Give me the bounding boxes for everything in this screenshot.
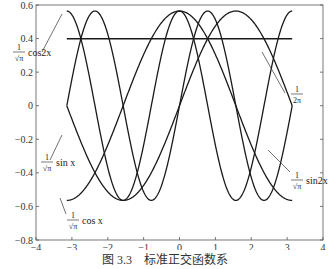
x-tick-label: 1 — [213, 242, 218, 250]
curve-label: 1√πcos x — [67, 211, 103, 231]
svg-text:sin x: sin x — [56, 157, 75, 168]
x-tick-label: −3 — [67, 242, 78, 250]
figure-caption: 图 3.3 标准正交函数系 — [0, 250, 330, 268]
svg-text:√π: √π — [43, 164, 51, 173]
chart: −4−3−2−101234−0.8−0.6−0.4−0.200.20.40.6 … — [0, 0, 330, 250]
svg-text:cos2x: cos2x — [28, 47, 51, 58]
svg-text:1: 1 — [295, 85, 299, 94]
x-tick-label: 2 — [249, 242, 254, 250]
svg-text:1: 1 — [45, 153, 49, 162]
curve-label: 1√πsin x — [41, 153, 75, 173]
svg-text:sin2x: sin2x — [306, 175, 328, 186]
y-tick-label: 0.2 — [21, 67, 34, 78]
y-tick-label: 0.4 — [21, 33, 34, 44]
svg-text:2π: 2π — [293, 96, 301, 105]
x-tick-label: 4 — [321, 242, 326, 250]
svg-text:1: 1 — [17, 43, 21, 52]
svg-text:√π: √π — [293, 182, 301, 191]
svg-text:1: 1 — [71, 211, 75, 220]
curve-label: 1√πcos2x — [13, 43, 51, 63]
y-tick-label: −0.2 — [15, 134, 33, 145]
y-tick-label: −0.6 — [15, 201, 33, 212]
y-tick-label: −0.4 — [15, 167, 33, 178]
curve-label: 1√πsin2x — [291, 171, 328, 191]
curve-label: 12π — [291, 85, 303, 105]
x-tick-label: 3 — [285, 242, 290, 250]
svg-text:1: 1 — [295, 171, 299, 180]
annotations: 1√πcos2x12π1√πsin x1√πsin2x1√πcos x — [13, 14, 328, 231]
x-tick-label: 0 — [177, 242, 182, 250]
y-tick-label: 0 — [28, 100, 33, 111]
y-tick-label: −0.8 — [15, 235, 33, 246]
x-tick-label: −2 — [102, 242, 113, 250]
svg-text:√π: √π — [69, 222, 77, 231]
y-tick-label: 0.6 — [21, 0, 34, 11]
x-tick-label: −1 — [138, 242, 149, 250]
curves — [67, 11, 292, 200]
plot-frame — [36, 5, 323, 240]
curve-4 — [67, 11, 292, 200]
svg-text:√π: √π — [15, 54, 23, 63]
svg-text:cos x: cos x — [82, 215, 103, 226]
